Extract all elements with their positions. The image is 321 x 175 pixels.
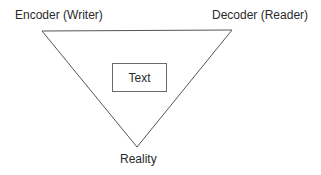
reality-label: Reality: [120, 152, 157, 166]
text-box-label: Text: [128, 71, 150, 85]
communication-triangle-diagram: Encoder (Writer) Decoder (Reader) Realit…: [0, 0, 321, 175]
text-box: Text: [112, 63, 167, 92]
encoder-writer-label: Encoder (Writer): [15, 8, 103, 22]
decoder-reader-label: Decoder (Reader): [212, 8, 308, 22]
